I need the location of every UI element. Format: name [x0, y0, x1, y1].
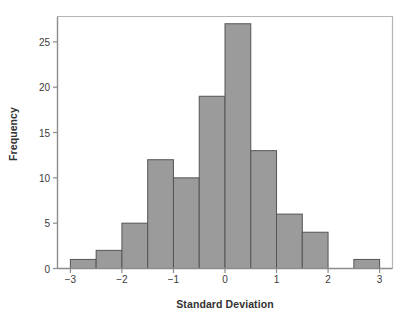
histogram-bar: [251, 151, 277, 269]
histogram-bar: [148, 160, 174, 269]
histogram-bar: [302, 232, 328, 268]
histogram-bar: [277, 214, 303, 268]
histogram-bar: [354, 259, 380, 268]
histogram-bar: [173, 178, 199, 269]
histogram-chart: Frequency Standard Deviation 0510152025 …: [0, 0, 412, 326]
histogram-bar: [96, 250, 122, 268]
plot-area: [0, 0, 412, 326]
histogram-bar: [122, 223, 148, 268]
histogram-bar: [199, 96, 225, 268]
histogram-bar: [225, 24, 251, 269]
bars-group: [70, 24, 379, 269]
histogram-bar: [70, 259, 96, 268]
